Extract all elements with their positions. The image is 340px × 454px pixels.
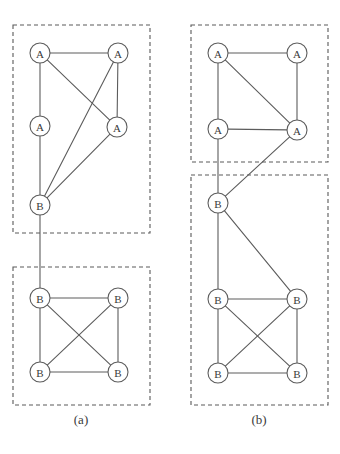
graph-edge — [117, 63, 118, 117]
graph-edge — [225, 137, 289, 196]
node-circle[interactable] — [108, 43, 128, 63]
node-circle[interactable] — [30, 362, 50, 382]
graph-node-b[interactable]: B — [287, 363, 307, 383]
graph-figure: AAAABBBBB(a)AAAABBBBB(b) — [0, 0, 340, 454]
graph-node-b[interactable]: B — [30, 288, 50, 308]
graph-node-b[interactable]: B — [208, 289, 228, 309]
node-circle[interactable] — [107, 117, 127, 137]
node-circle[interactable] — [208, 363, 228, 383]
graph-node-b[interactable]: B — [287, 289, 307, 309]
graph-node-a[interactable]: A — [208, 43, 228, 63]
panel-a-edges — [40, 53, 118, 372]
graph-node-b[interactable]: B — [208, 363, 228, 383]
node-circle[interactable] — [208, 119, 228, 139]
cluster-a-lower — [13, 267, 150, 405]
graph-node-a[interactable]: A — [107, 117, 127, 137]
node-circle[interactable] — [208, 289, 228, 309]
panel-a-caption: (a) — [74, 412, 88, 427]
panel-b-caption: (b) — [251, 412, 266, 427]
node-circle[interactable] — [108, 288, 128, 308]
panel-b: AAAABBBBB(b) — [191, 25, 328, 427]
node-circle[interactable] — [287, 120, 307, 140]
node-circle[interactable] — [287, 289, 307, 309]
graph-edge — [47, 134, 110, 198]
node-circle[interactable] — [30, 43, 50, 63]
graph-node-b[interactable]: B — [208, 193, 228, 213]
graph-node-b[interactable]: B — [30, 195, 50, 215]
graph-node-b[interactable]: B — [108, 288, 128, 308]
node-circle[interactable] — [30, 288, 50, 308]
graph-node-a[interactable]: A — [287, 120, 307, 140]
graph-edge — [224, 211, 290, 292]
graph-edge — [228, 129, 287, 130]
graph-node-a[interactable]: A — [108, 43, 128, 63]
node-circle[interactable] — [208, 43, 228, 63]
node-circle[interactable] — [30, 195, 50, 215]
panel-b-edges — [218, 53, 297, 373]
graph-node-a[interactable]: A — [208, 119, 228, 139]
graph-node-a[interactable]: A — [30, 43, 50, 63]
graph-edge — [47, 60, 110, 120]
node-circle[interactable] — [108, 362, 128, 382]
graph-edge — [225, 60, 290, 123]
node-circle[interactable] — [208, 193, 228, 213]
node-circle[interactable] — [287, 363, 307, 383]
node-circle[interactable] — [287, 43, 307, 63]
node-circle[interactable] — [30, 116, 50, 136]
panel-a: AAAABBBBB(a) — [13, 25, 150, 427]
figure-canvas: AAAABBBBB(a)AAAABBBBB(b) — [0, 0, 340, 454]
graph-node-b[interactable]: B — [108, 362, 128, 382]
graph-node-a[interactable]: A — [30, 116, 50, 136]
graph-node-a[interactable]: A — [287, 43, 307, 63]
graph-node-b[interactable]: B — [30, 362, 50, 382]
graph-edge — [45, 62, 114, 196]
